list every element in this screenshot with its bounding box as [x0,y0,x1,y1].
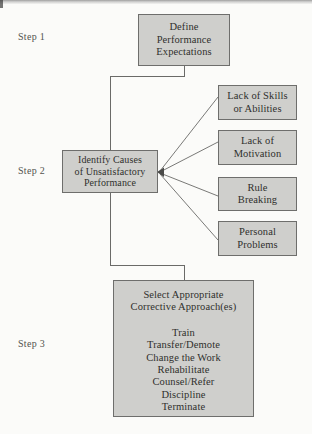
node-define-line-2: Performance [157,34,212,46]
node-select-heading-line-1: Select Appropriate [143,289,223,301]
node-lack-of-skills-or-abilities[interactable]: Lack of Skills or Abilities [218,85,297,120]
node-skills-line-1: Lack of Skills [227,90,287,102]
flowchart-canvas: Step 1 Step 2 Step 3 Define Performance … [0,0,312,434]
node-personal-line-2: Problems [237,239,277,251]
node-lack-of-motivation[interactable]: Lack of Motivation [218,130,297,165]
node-motivation-line-1: Lack of [241,135,274,147]
arrowhead-into-identify-causes [157,168,164,178]
node-select-option-terminate: Terminate [162,401,205,413]
node-skills-line-2: or Abilities [233,103,281,115]
node-select-option-counsel-refer: Counsel/Refer [153,376,215,388]
connector-define-to-identify [110,66,184,150]
node-define-line-3: Expectations [156,46,211,58]
connector-skills-to-identify [160,97,218,171]
node-motivation-line-2: Motivation [234,148,282,160]
step-label-2: Step 2 [18,165,45,176]
scan-edge-corner-artifact [0,0,3,8]
node-select-appropriate-corrective-approaches[interactable]: Select Appropriate Corrective Approach(e… [113,280,254,417]
node-personal-line-1: Personal [239,226,276,238]
node-select-heading-line-2: Corrective Approach(es) [131,301,237,313]
node-identify-line-2: of Unsatisfactory [75,166,146,178]
node-select-option-discipline: Discipline [161,389,205,401]
connector-motivation-to-identify [160,142,218,172]
node-select-option-train: Train [172,327,195,339]
connector-identify-to-select [110,193,184,280]
node-rule-line-1: Rule [247,182,267,194]
node-identify-line-3: Performance [84,177,136,189]
node-select-option-rehabilitate: Rehabilitate [158,364,210,376]
node-select-option-transfer-demote: Transfer/Demote [147,339,220,351]
node-select-option-change-the-work: Change the Work [146,352,221,364]
node-personal-problems[interactable]: Personal Problems [218,221,297,256]
connector-rule-to-identify [160,173,218,196]
scan-edge-artifact [0,0,312,4]
step-label-1: Step 1 [18,31,45,42]
node-identify-causes-of-unsatisfactory-performance[interactable]: Identify Causes of Unsatisfactory Perfor… [62,150,158,193]
node-define-line-1: Define [169,21,198,33]
node-identify-line-1: Identify Causes [78,154,142,166]
connector-personal-to-identify [160,174,218,240]
node-rule-line-2: Breaking [238,194,277,206]
node-rule-breaking[interactable]: Rule Breaking [218,177,297,211]
node-define-performance-expectations[interactable]: Define Performance Expectations [138,14,230,66]
step-label-3: Step 3 [18,338,45,349]
